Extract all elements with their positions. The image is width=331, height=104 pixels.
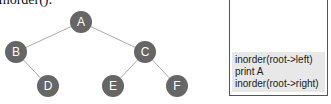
binary-tree: A B C D E F [0, 0, 220, 104]
node-f: F [166, 75, 188, 97]
stack-frame: inorder(root->left) print A inorder(root… [232, 52, 325, 92]
svg-text:B: B [12, 45, 20, 59]
svg-text:D: D [44, 79, 53, 93]
frame-line-right: inorder(root->right) [235, 78, 322, 90]
node-d: D [37, 75, 59, 97]
svg-text:F: F [173, 79, 180, 93]
frame-line-print: print A [235, 66, 322, 78]
call-stack: inorder(root->left) print A inorder(root… [229, 0, 328, 96]
node-c: C [134, 41, 156, 63]
node-a: A [70, 11, 92, 33]
svg-text:C: C [141, 45, 150, 59]
svg-text:E: E [109, 79, 117, 93]
node-b: B [5, 41, 27, 63]
node-e: E [102, 75, 124, 97]
svg-text:A: A [77, 15, 85, 29]
frame-line-left: inorder(root->left) [235, 54, 322, 66]
